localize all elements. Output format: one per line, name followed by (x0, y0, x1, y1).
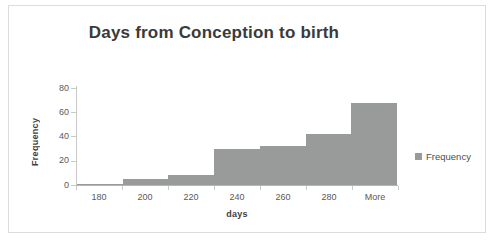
x-tick-mark-4 (260, 186, 261, 190)
bar-200[interactable] (123, 179, 169, 185)
y-tick-label-20: 20 (47, 155, 69, 165)
x-tick-mark-1 (122, 186, 123, 190)
x-tick-mark-2 (168, 186, 169, 190)
x-tick-mark-7 (398, 186, 399, 190)
x-tick-label-240: 240 (214, 192, 260, 202)
y-tick-label-80: 80 (47, 83, 69, 93)
y-tick-label-0: 0 (47, 180, 69, 190)
bar-280[interactable] (306, 134, 352, 185)
legend-swatch-icon (415, 153, 422, 160)
y-tick-label-40: 40 (47, 131, 69, 141)
y-axis-tick-labels: 80 60 40 20 0 (45, 6, 69, 232)
bar-more[interactable] (351, 103, 397, 185)
plot-area (77, 88, 397, 185)
x-axis-title: days (77, 209, 397, 219)
legend-label-frequency: Frequency (426, 151, 471, 162)
x-tick-label-more: More (352, 192, 398, 202)
bar-220[interactable] (168, 175, 214, 185)
bar-180[interactable] (77, 184, 123, 185)
x-axis-line (76, 185, 398, 186)
bar-series (77, 88, 397, 185)
y-tick-label-60: 60 (47, 107, 69, 117)
x-tick-mark-3 (214, 186, 215, 190)
x-tick-mark-5 (306, 186, 307, 190)
x-tick-mark-0 (76, 186, 77, 190)
bar-260[interactable] (260, 146, 306, 185)
x-tick-label-280: 280 (306, 192, 352, 202)
x-tick-label-220: 220 (168, 192, 214, 202)
chart-title: Days from Conception to birth (9, 23, 419, 43)
bar-240[interactable] (214, 149, 260, 185)
chart-container: Days from Conception to birth Frequency … (8, 5, 486, 233)
x-tick-label-180: 180 (76, 192, 122, 202)
x-tick-label-200: 200 (122, 192, 168, 202)
x-tick-label-260: 260 (260, 192, 306, 202)
y-axis-title: Frequency (30, 102, 44, 182)
x-tick-mark-6 (352, 186, 353, 190)
chart-legend[interactable]: Frequency (415, 151, 471, 162)
